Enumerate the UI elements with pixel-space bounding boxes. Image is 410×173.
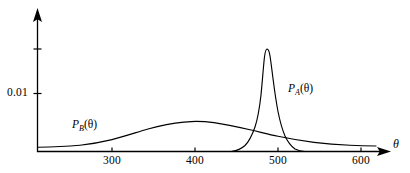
curve-label-pb-arg: (θ) <box>84 118 97 130</box>
curve-label-pb-base: P <box>72 118 79 130</box>
y-tick-label-0.01: 0.01 <box>7 87 28 99</box>
x-tick-label-300: 300 <box>103 155 121 167</box>
curve-label-pa-arg: (θ) <box>300 82 313 94</box>
x-tick-label-600: 600 <box>352 155 370 167</box>
x-axis-label-theta: θ <box>393 138 399 150</box>
curve-label-pa: PA(θ) <box>288 83 313 97</box>
plot-canvas <box>0 0 410 173</box>
curve-label-pb: PB(θ) <box>72 119 97 133</box>
x-tick-label-400: 400 <box>186 155 204 167</box>
figure-container: 0.01 300 400 500 600 θ PB(θ) PA(θ) <box>0 0 410 173</box>
curve-pa <box>232 49 305 152</box>
x-tick-label-500: 500 <box>269 155 287 167</box>
curve-label-pa-base: P <box>288 82 295 94</box>
